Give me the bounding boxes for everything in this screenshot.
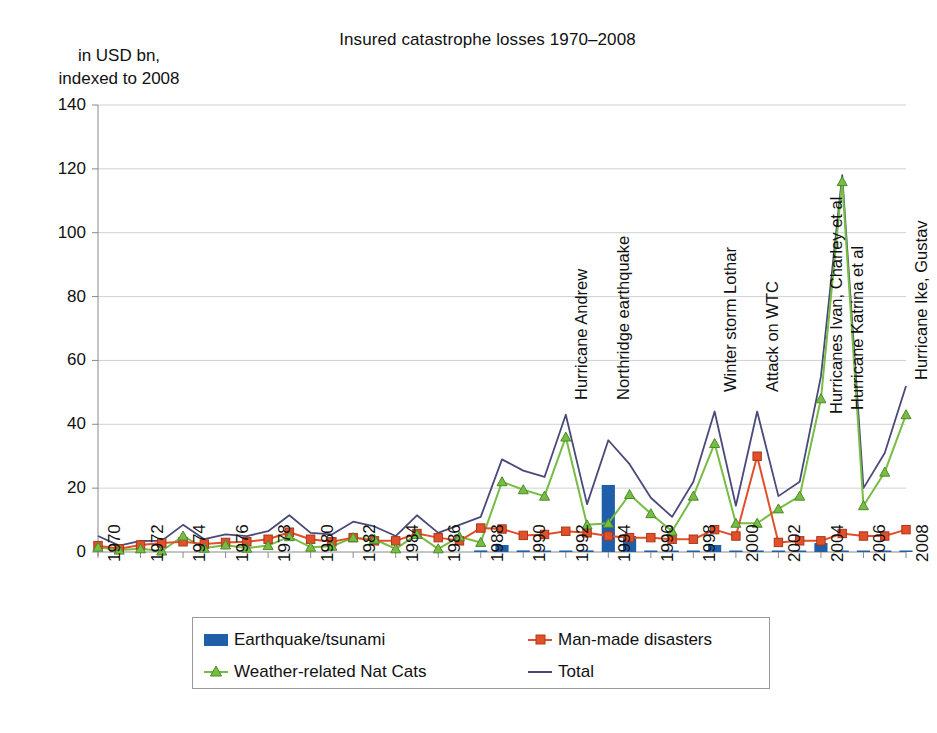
y-tick-label: 0 bbox=[32, 542, 86, 562]
y-tick-label: 60 bbox=[32, 350, 86, 370]
marker-square bbox=[817, 537, 825, 545]
marker-square bbox=[859, 532, 867, 540]
event-annotation: Northridge earthquake bbox=[614, 236, 633, 400]
x-tick-label: 1998 bbox=[700, 524, 720, 562]
x-tick-label: 2008 bbox=[913, 524, 933, 562]
legend-item-total: Total bbox=[527, 660, 594, 684]
x-tick-label: 1978 bbox=[275, 524, 295, 562]
x-tick-label: 1988 bbox=[488, 524, 508, 562]
legend-label: Man-made disasters bbox=[558, 630, 712, 650]
x-tick-label: 1986 bbox=[445, 524, 465, 562]
event-annotation: Attack on WTC bbox=[763, 281, 782, 392]
legend-label: Earthquake/tsunami bbox=[234, 630, 385, 650]
x-tick-label: 1990 bbox=[530, 524, 550, 562]
marker-square bbox=[753, 452, 761, 460]
x-tick-label: 1992 bbox=[573, 524, 593, 562]
series-line-weather-related-nat-cats bbox=[98, 182, 906, 551]
marker-square bbox=[774, 538, 782, 546]
marker-square bbox=[562, 527, 570, 535]
marker-triangle bbox=[688, 491, 698, 500]
y-tick-label: 40 bbox=[32, 414, 86, 434]
event-annotation: Hurricanes Ivan, Charley et al bbox=[827, 197, 846, 414]
plain-line-icon bbox=[527, 660, 553, 684]
event-annotation: Winter storm Lothar bbox=[721, 247, 740, 392]
marker-square bbox=[519, 531, 527, 539]
x-tick-label: 2000 bbox=[743, 524, 763, 562]
marker-square bbox=[732, 532, 740, 540]
marker-triangle bbox=[178, 531, 188, 540]
x-tick-label: 2004 bbox=[828, 524, 848, 562]
legend-item-weather: Weather-related Nat Cats bbox=[203, 660, 426, 684]
bar bbox=[517, 550, 530, 552]
marker-triangle bbox=[880, 467, 890, 476]
x-tick-label: 1974 bbox=[190, 524, 210, 562]
marker-triangle bbox=[837, 177, 847, 186]
marker-triangle bbox=[710, 438, 720, 447]
legend-item-manmade: Man-made disasters bbox=[527, 628, 712, 652]
marker-triangle bbox=[497, 477, 507, 486]
event-annotation: Hurricane Andrew bbox=[572, 269, 591, 400]
marker-triangle bbox=[795, 491, 805, 500]
x-tick-label: 1970 bbox=[105, 524, 125, 562]
y-tick-label: 100 bbox=[32, 223, 86, 243]
marker-triangle bbox=[561, 432, 571, 441]
marker-triangle bbox=[433, 544, 443, 553]
bar bbox=[687, 551, 700, 553]
x-tick-label: 1996 bbox=[658, 524, 678, 562]
marker-square bbox=[647, 533, 655, 541]
x-tick-label: 1984 bbox=[403, 524, 423, 562]
y-tick-label: 20 bbox=[32, 478, 86, 498]
legend: Earthquake/tsunami Man-made disasters We… bbox=[192, 617, 770, 689]
legend-label: Weather-related Nat Cats bbox=[234, 662, 426, 682]
marker-square bbox=[689, 535, 697, 543]
x-tick-label: 2002 bbox=[785, 524, 805, 562]
x-tick-label: 1972 bbox=[148, 524, 168, 562]
bar bbox=[559, 551, 572, 553]
bar bbox=[899, 551, 912, 553]
x-tick-label: 1976 bbox=[233, 524, 253, 562]
y-tick-label: 80 bbox=[32, 287, 86, 307]
y-tick-label: 140 bbox=[32, 95, 86, 115]
x-tick-label: 1980 bbox=[318, 524, 338, 562]
y-tick-label: 120 bbox=[32, 159, 86, 179]
x-tick-label: 2006 bbox=[870, 524, 890, 562]
x-tick-label: 1994 bbox=[615, 524, 635, 562]
bar bbox=[644, 551, 657, 553]
marker-triangle bbox=[625, 490, 635, 499]
marker-triangle bbox=[773, 504, 783, 513]
line-square-marker-icon bbox=[527, 628, 553, 652]
bar bbox=[857, 551, 870, 553]
legend-label: Total bbox=[558, 662, 594, 682]
bar bbox=[772, 551, 785, 553]
marker-square bbox=[604, 532, 612, 540]
marker-square bbox=[477, 524, 485, 532]
marker-triangle bbox=[858, 501, 868, 510]
bar-swatch-icon bbox=[203, 628, 229, 652]
legend-item-earthquake: Earthquake/tsunami bbox=[203, 628, 385, 652]
marker-triangle bbox=[901, 410, 911, 419]
event-annotation: Hurricane Ike, Gustav bbox=[912, 220, 931, 380]
x-tick-label: 1982 bbox=[360, 524, 380, 562]
marker-square bbox=[434, 533, 442, 541]
bar bbox=[729, 551, 742, 553]
chart-page: in USD bn, indexed to 2008 Insured catas… bbox=[0, 0, 937, 733]
marker-square bbox=[902, 525, 910, 533]
line-triangle-marker-icon bbox=[203, 660, 229, 684]
bar bbox=[474, 550, 487, 552]
event-annotation: Hurricane Katrina et al bbox=[848, 246, 867, 410]
